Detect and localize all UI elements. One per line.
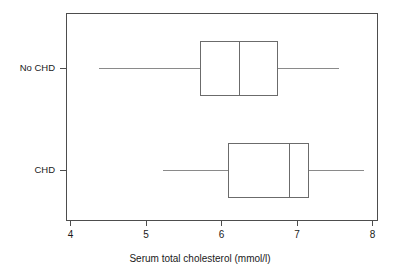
figure-background <box>0 0 397 275</box>
x-tick-label-8: 8 <box>370 229 376 240</box>
category-label-no-chd: No CHD <box>20 62 56 73</box>
x-tick-label-7: 7 <box>294 229 300 240</box>
boxplot-figure: 4 5 6 7 8 Serum total cholesterol (mmol/… <box>0 0 397 275</box>
x-tick-label-4: 4 <box>68 229 74 240</box>
boxplot-svg: 4 5 6 7 8 Serum total cholesterol (mmol/… <box>0 0 397 275</box>
category-label-chd: CHD <box>34 164 55 175</box>
x-tick-label-5: 5 <box>143 229 149 240</box>
x-tick-label-6: 6 <box>219 229 225 240</box>
x-axis-title: Serum total cholesterol (mmol/l) <box>129 253 270 264</box>
